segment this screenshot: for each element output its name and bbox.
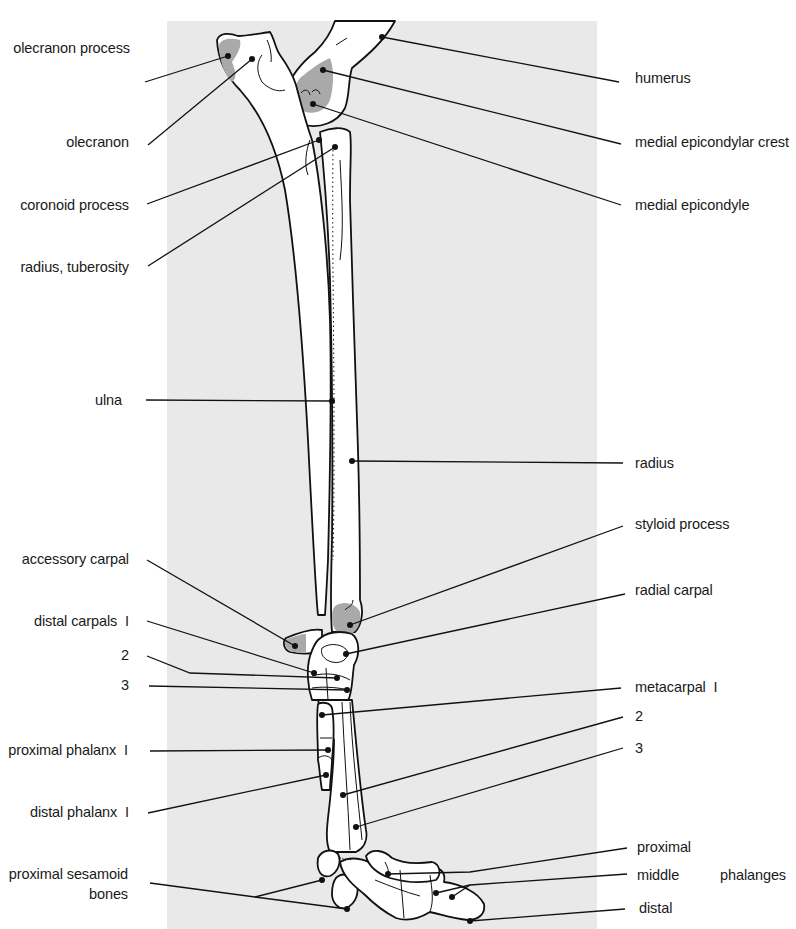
pointer-dot-phalanges-proximal xyxy=(385,871,391,877)
label-humerus: humerus xyxy=(635,70,691,87)
pointer-dot-olecranon-process xyxy=(225,53,231,59)
pointer-dot-metacarpal-2 xyxy=(340,792,346,798)
label-phalanges-proximal: proximal xyxy=(637,839,691,856)
pointer-dot-metacarpal-1 xyxy=(319,712,325,718)
pointer-dot-proximal-phalanx-1 xyxy=(325,747,331,753)
label-olecranon: olecranon xyxy=(5,134,129,151)
label-metacarpal-1: metacarpal I xyxy=(635,679,718,696)
label-distal-carpals-2: 2 xyxy=(5,647,129,664)
label-proximal-sesamoid-bones-line2: bones xyxy=(0,886,128,903)
proximal-sesamoid-bones xyxy=(318,851,340,877)
pointer-dot-proximal-sesamoid-a xyxy=(319,877,325,883)
label-radius: radius xyxy=(635,455,674,472)
pointer-dot-distal-carpals-2 xyxy=(334,675,340,681)
pointer-dot-styloid-process xyxy=(347,622,353,628)
pointer-dot-medial-epicondyle xyxy=(310,101,316,107)
leader-line-olecranon-process xyxy=(145,56,228,82)
pointer-dot-radius-tuberosity xyxy=(332,144,338,150)
label-radius-tuberosity: radius, tuberosity xyxy=(5,259,129,276)
leader-line-styloid-process xyxy=(350,526,623,625)
leader-line-proximal-sesamoid-a xyxy=(150,880,322,897)
pointer-dot-distal-carpals-1 xyxy=(311,670,317,676)
leader-line-accessory-carpal xyxy=(147,560,295,646)
pointer-dot-proximal-sesamoid-b xyxy=(344,906,350,912)
label-medial-epicondyle: medial epicondyle xyxy=(635,197,749,214)
pointer-dot-distal-phalanx-1 xyxy=(323,772,329,778)
label-proximal-sesamoid-bones: proximal sesamoid xyxy=(0,866,128,883)
label-distal-carpals-3: 3 xyxy=(5,677,129,694)
pointer-dot-phalanges-distal xyxy=(467,918,473,924)
leader-line-medial-epicondylar-crest xyxy=(323,70,621,144)
pointer-dot-radial-carpal xyxy=(343,651,349,657)
label-distal-carpals-1: distal carpals I xyxy=(5,613,129,630)
leader-line-radial-carpal xyxy=(346,594,625,654)
label-phalanges-distal: distal xyxy=(639,900,672,917)
label-proximal-phalanx-1: proximal phalanx I xyxy=(0,742,128,759)
leader-line-ulna xyxy=(146,400,332,401)
label-styloid-process: styloid process xyxy=(635,516,729,533)
label-coronoid-process: coronoid process xyxy=(5,197,129,214)
label-accessory-carpal: accessory carpal xyxy=(5,551,129,568)
leader-line-olecranon xyxy=(148,59,252,145)
pointer-dot-ulna xyxy=(329,398,335,404)
pointer-dot-radius xyxy=(349,458,355,464)
leader-line-metacarpal-1 xyxy=(322,688,621,715)
leader-lines xyxy=(145,34,627,924)
label-distal-phalanx-1: distal phalanx I xyxy=(5,804,129,821)
leader-line-metacarpal-2 xyxy=(343,717,623,795)
label-metacarpal-3: 3 xyxy=(635,740,643,757)
pointer-dot-phalanges-middle-a xyxy=(433,890,439,896)
label-medial-epicondylar-crest: medial epicondylar crest xyxy=(635,134,789,151)
label-ulna: ulna xyxy=(5,392,122,409)
label-olecranon-process: olecranon process xyxy=(5,40,130,57)
leader-line-humerus xyxy=(382,37,619,82)
leader-line-proximal-phalanx-1 xyxy=(150,750,328,751)
pointer-dot-medial-epicondylar-crest xyxy=(320,67,326,73)
label-phalanges-middle: middle xyxy=(637,867,679,884)
pointer-dot-coronoid-process xyxy=(316,137,322,143)
label-radial-carpal: radial carpal xyxy=(635,582,713,599)
pointer-dot-accessory-carpal xyxy=(292,643,298,649)
leader-line-metacarpal-3 xyxy=(356,748,623,827)
pointer-dot-olecranon xyxy=(249,56,255,62)
leader-line-medial-epicondyle xyxy=(313,104,621,205)
pointer-dot-humerus xyxy=(379,34,385,40)
pointer-dot-distal-carpals-3 xyxy=(344,687,350,693)
leader-line-phalanges-distal xyxy=(470,909,625,921)
leader-line-radius xyxy=(352,461,623,463)
pointer-dot-phalanges-middle-b xyxy=(449,894,455,900)
label-metacarpal-2: 2 xyxy=(635,708,643,725)
label-phalanges-group: phalanges xyxy=(720,867,786,884)
leader-line-distal-phalanx-1 xyxy=(148,775,326,813)
pointer-dot-metacarpal-3 xyxy=(353,824,359,830)
